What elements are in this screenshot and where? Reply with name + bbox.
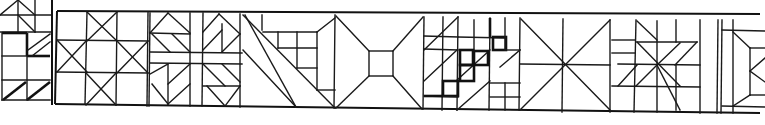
block-partial-right	[721, 20, 765, 113]
frame-bottom	[55, 104, 760, 113]
block-eight-point-star	[612, 20, 718, 113]
block-diagonal-stripe	[243, 15, 335, 108]
frame-top	[57, 11, 760, 14]
quilt-block-strip	[0, 0, 765, 125]
block-jacobs-ladder	[424, 17, 520, 110]
quilt-drawing	[0, 0, 765, 125]
block-bow-tie	[336, 16, 424, 109]
block-broken-dishes	[520, 19, 610, 112]
block-partial-left	[0, 0, 52, 105]
block-pinwheel-cross	[149, 13, 242, 107]
block-ohio-star	[56, 12, 148, 106]
